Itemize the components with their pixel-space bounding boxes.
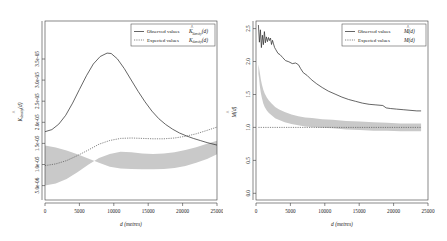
left-xtick-label-3: 15000 [142, 208, 155, 214]
right-x-axis: 0 5000 10000 15000 20000 25000 [255, 203, 435, 214]
right-xtick-label-2: 10000 [318, 208, 331, 214]
right-ytick-label-1: 0.5 [245, 157, 251, 164]
right-legend-expected-arg: (d) [409, 37, 415, 44]
two-panel-figure: 5.0e-06 1.0e-05 1.5e-05 2.0e-05 2.5e-05 … [0, 0, 447, 241]
left-xtick-label-2: 10000 [107, 208, 120, 214]
left-xtick-label-0: 0 [44, 208, 47, 214]
svg-text:M(d): M(d) [403, 37, 415, 44]
right-ytick-label-4: 2.0 [245, 58, 251, 65]
left-xtick-label-5: 25000 [211, 208, 223, 214]
svg-text:M(d): M(d) [231, 106, 238, 118]
left-y-hat: ^ [11, 110, 17, 113]
right-ytick-label-3: 1.5 [245, 91, 251, 98]
right-plot-svg: 0.0 0.5 1.0 1.5 2.0 2.5 0 5000 10000 150… [224, 0, 447, 241]
svg-text:Kdensity(d): Kdensity(d) [17, 102, 24, 122]
right-x-axis-title: d (metres) [331, 221, 353, 228]
left-ytick-label-6: 3.5e-05 [34, 51, 40, 67]
left-legend-expected-label: Expected values [147, 38, 179, 43]
right-xtick-label-0: 0 [255, 208, 258, 214]
left-y-arg: (d) [17, 102, 24, 108]
right-simulation-envelope [258, 65, 421, 132]
panel-m-function: 0.0 0.5 1.0 1.5 2.0 2.5 0 5000 10000 150… [224, 0, 447, 241]
right-ytick-label-0: 0.0 [245, 190, 251, 197]
right-legend-observed-label: Observed values [358, 29, 391, 34]
left-legend-observed-label: Observed values [147, 29, 180, 34]
left-plot-svg: 5.0e-06 1.0e-05 1.5e-05 2.0e-05 2.5e-05 … [0, 0, 223, 241]
left-xtick-label-4: 20000 [176, 208, 189, 214]
right-plot-frame [256, 21, 428, 200]
left-legend-expected-arg: (d) [202, 37, 208, 44]
right-y-arg: (d) [231, 106, 238, 112]
left-observed-curve [45, 53, 217, 145]
left-ytick-label-2: 1.5e-05 [34, 135, 40, 151]
right-xtick-label-4: 20000 [387, 208, 400, 214]
right-legend-expected-label: Expected values [358, 38, 390, 43]
left-ytick-label-4: 2.5e-05 [34, 93, 40, 109]
left-ytick-label-1: 1.0e-05 [34, 156, 40, 172]
left-ytick-label-5: 3.0e-05 [34, 72, 40, 88]
left-x-axis: 0 5000 10000 15000 20000 25000 [44, 203, 223, 214]
svg-text:M(d): M(d) [403, 28, 415, 35]
right-xtick-label-5: 25000 [422, 208, 435, 214]
right-xtick-label-1: 5000 [285, 208, 296, 214]
left-legend[interactable]: Observed values Expected values ^ Kdensi… [131, 24, 215, 46]
right-y-axis-title: ^ M(d) [225, 106, 238, 118]
right-legend-observed-arg: (d) [409, 28, 415, 35]
left-y-axis-title: ^ Kdensity(d) [11, 102, 24, 122]
left-ytick-label-0: 5.0e-06 [34, 177, 40, 193]
right-y-axis: 0.0 0.5 1.0 1.5 2.0 2.5 [245, 21, 256, 200]
right-legend[interactable]: Observed values Expected values ^ M(d) ‾… [342, 24, 426, 46]
right-xtick-label-3: 15000 [353, 208, 366, 214]
panel-k-density: 5.0e-06 1.0e-05 1.5e-05 2.0e-05 2.5e-05 … [0, 0, 223, 241]
right-ytick-label-5: 2.5 [245, 25, 251, 32]
left-xtick-label-1: 5000 [74, 208, 85, 214]
left-legend-observed-arg: (d) [202, 28, 208, 35]
left-ytick-label-3: 2.0e-05 [34, 114, 40, 130]
left-simulation-envelope [45, 141, 217, 186]
right-ytick-label-2: 1.0 [245, 124, 251, 131]
left-y-axis: 5.0e-06 1.0e-05 1.5e-05 2.0e-05 2.5e-05 … [34, 21, 45, 200]
left-x-axis-title: d (metres) [120, 221, 142, 228]
